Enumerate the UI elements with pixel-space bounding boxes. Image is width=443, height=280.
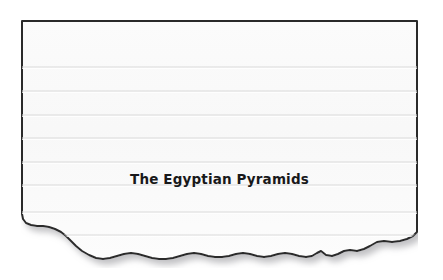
page-canvas: The Egyptian Pyramids (0, 0, 443, 280)
note-title: The Egyptian Pyramids (21, 170, 418, 188)
torn-paper-edge-icon (21, 20, 418, 268)
torn-index-card[interactable]: The Egyptian Pyramids (21, 20, 418, 268)
